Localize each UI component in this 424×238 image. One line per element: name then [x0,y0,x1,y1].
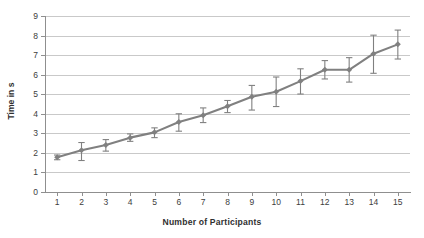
series-time-in-s [54,30,401,160]
data-point-marker [152,129,158,135]
y-axis-title: Time in s [6,66,16,136]
data-point-marker [103,142,109,148]
chart-container: 0123456789 123456789101112131415 Time in… [0,0,424,238]
data-point-marker [79,147,85,153]
data-point-marker [395,41,401,47]
data-point-marker [273,89,279,95]
data-point-marker [225,103,231,109]
x-axis-title: Number of Participants [0,217,424,227]
data-point-marker [127,135,133,141]
data-point-marker [176,119,182,125]
data-point-marker [249,94,255,100]
data-point-marker [200,112,206,118]
data-series-layer [0,0,424,238]
